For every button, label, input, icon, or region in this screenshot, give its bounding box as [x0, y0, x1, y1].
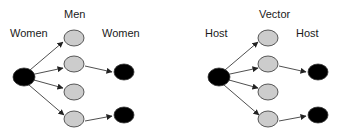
right-panel-graph [224, 42, 306, 121]
arrow-icon [35, 68, 63, 74]
arrow-icon [279, 66, 306, 72]
infected-target-node-icon [308, 64, 328, 80]
infected-target-node-icon [114, 64, 134, 80]
infected-source-node-icon [13, 68, 35, 86]
infected-middle-node-icon [258, 56, 278, 72]
arrow-icon [230, 68, 258, 74]
left-panel-nodes [13, 30, 134, 127]
uninfected-node-icon [64, 84, 84, 100]
arrow-icon [34, 80, 63, 88]
left-panel-graph [29, 42, 112, 121]
arrow-icon [85, 66, 112, 72]
infected-target-node-icon [114, 107, 134, 123]
uninfected-node-icon [64, 30, 84, 46]
infected-middle-node-icon [64, 56, 84, 72]
arrow-icon [229, 80, 258, 88]
arrow-icon [279, 116, 306, 121]
infected-middle-node-icon [258, 111, 278, 127]
arrow-icon [29, 85, 64, 115]
uninfected-node-icon [258, 84, 278, 100]
right-panel-nodes [208, 30, 328, 127]
infected-middle-node-icon [64, 111, 84, 127]
arrow-icon [224, 85, 259, 115]
arrow-icon [85, 116, 112, 121]
diagram-canvas [0, 0, 338, 133]
infected-source-node-icon [208, 68, 230, 86]
arrow-icon [30, 42, 63, 70]
arrow-icon [225, 42, 258, 70]
uninfected-node-icon [258, 30, 278, 46]
infected-target-node-icon [308, 107, 328, 123]
